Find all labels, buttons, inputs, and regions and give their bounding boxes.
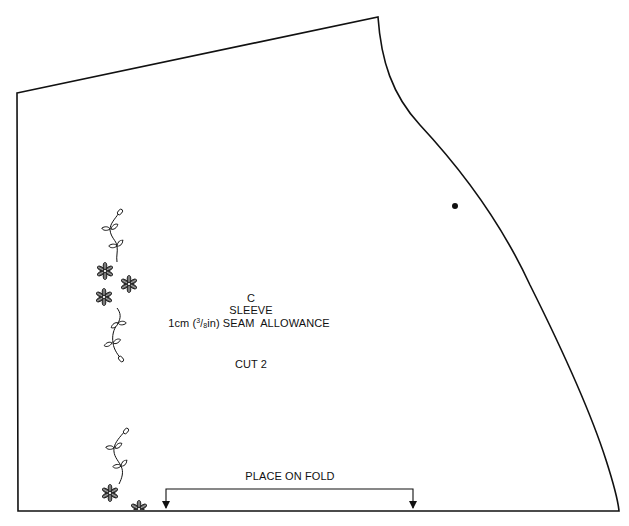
floral-vine-icon <box>102 427 148 517</box>
fold-bracket-icon <box>166 489 413 508</box>
fold-arrow-right-icon <box>409 501 417 509</box>
piece-name-label: SLEEVE <box>229 304 272 316</box>
place-on-fold-label: PLACE ON FOLD <box>245 470 334 482</box>
seam-allowance-label: 1cm (3/8in) SEAM ALLOWANCE <box>168 317 329 330</box>
seam-allowance-suffix: in) SEAM ALLOWANCE <box>207 317 330 329</box>
pattern-outline <box>17 17 619 511</box>
floral-vine-icon <box>96 208 138 362</box>
piece-letter-label: C <box>247 292 255 304</box>
notch-dot-icon <box>452 203 458 209</box>
cut-instruction-label: CUT 2 <box>235 358 267 370</box>
sleeve-pattern-drawing <box>0 0 629 526</box>
fold-arrow-left-icon <box>162 501 170 509</box>
seam-allowance-prefix: 1cm ( <box>168 317 196 329</box>
